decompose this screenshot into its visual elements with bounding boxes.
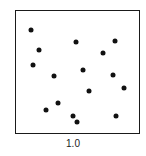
data-point <box>31 63 36 68</box>
data-point <box>114 114 119 119</box>
data-point <box>122 86 127 91</box>
data-point <box>74 40 79 45</box>
data-point <box>111 73 116 78</box>
data-point <box>75 120 80 125</box>
data-point <box>37 48 42 53</box>
data-point <box>113 39 118 44</box>
data-point <box>56 101 61 106</box>
data-point <box>71 114 76 119</box>
plot-frame <box>15 10 140 134</box>
data-point <box>87 89 92 94</box>
data-point <box>81 68 86 73</box>
data-point <box>101 51 106 56</box>
data-point <box>44 108 49 113</box>
data-point <box>52 74 57 79</box>
scale-label: 1.0 <box>0 138 146 149</box>
data-point <box>29 28 34 33</box>
